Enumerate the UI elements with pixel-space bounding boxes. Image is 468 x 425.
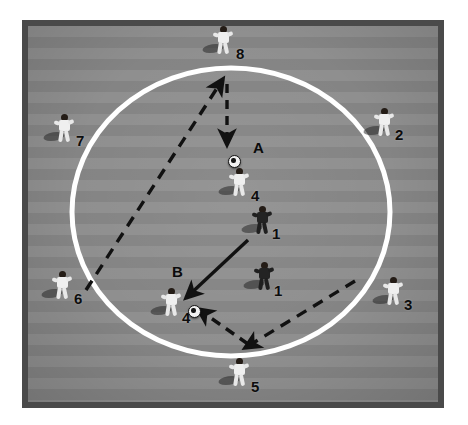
player-leg-right — [239, 374, 245, 387]
player-leg-right — [239, 184, 245, 197]
player-number-label: 3 — [404, 297, 412, 312]
player-8-outside — [212, 26, 234, 56]
player-arm-right — [387, 113, 394, 119]
arrow-run-a-to-b — [186, 240, 248, 298]
player-arm-right — [67, 119, 74, 125]
arrow-layer — [86, 79, 355, 348]
player-arm-right — [65, 276, 72, 282]
diagram-canvas: 8235674114AB — [0, 0, 468, 425]
player-number-label: 6 — [74, 291, 82, 306]
player-leg-right — [171, 304, 177, 317]
player-arm-right — [265, 211, 272, 217]
player-number-label: 8 — [236, 46, 244, 61]
player-number-label: 1 — [274, 283, 282, 298]
player-arm-right — [174, 293, 181, 299]
player-arm-right — [242, 173, 249, 179]
player-arm-right — [396, 282, 403, 288]
arrow-pass-6-to-8 — [86, 79, 223, 290]
player-7-outside — [53, 114, 75, 144]
player-leg-right — [384, 124, 390, 137]
zone-label-a: A — [253, 140, 264, 155]
player-leg-right — [262, 222, 268, 235]
player-number-label: 2 — [395, 127, 403, 142]
center-circle — [72, 68, 390, 356]
player-5-outside — [228, 358, 250, 388]
player-number-label: 5 — [251, 379, 259, 394]
player-1-inside-defender — [251, 206, 273, 236]
soccer-ball-a-icon — [228, 155, 241, 168]
soccer-ball-b-icon — [188, 305, 201, 318]
player-leg-right — [264, 278, 270, 291]
player-3-outside — [382, 277, 404, 307]
player-4-inside-attacker — [228, 168, 250, 198]
player-1-inside-defender — [253, 262, 275, 292]
player-4-inside-attacker — [160, 288, 182, 318]
arrow-pass-5-to-ball-b — [198, 309, 248, 344]
player-number-label: 7 — [76, 133, 84, 148]
player-leg-right — [223, 42, 229, 55]
player-arm-right — [226, 31, 233, 37]
player-2-outside — [373, 108, 395, 138]
player-leg-right — [393, 293, 399, 306]
player-6-outside — [51, 271, 73, 301]
player-number-label: 1 — [272, 226, 280, 241]
player-arm-right — [267, 267, 274, 273]
player-arm-right — [242, 363, 249, 369]
player-number-label: 4 — [251, 188, 259, 203]
player-leg-right — [64, 130, 70, 143]
player-leg-right — [62, 287, 68, 300]
zone-label-b: B — [172, 264, 183, 279]
